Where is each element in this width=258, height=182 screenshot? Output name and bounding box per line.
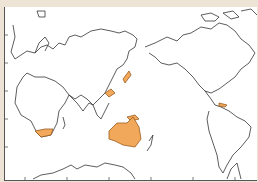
south-america-outline xyxy=(205,91,251,173)
new-zealand-outline xyxy=(147,135,153,151)
australia-highlight xyxy=(109,117,141,147)
south-africa-highlight xyxy=(35,129,53,137)
africa-outline xyxy=(15,77,69,137)
arctic-islands-outline xyxy=(37,11,239,21)
eurasia-outline xyxy=(11,25,137,105)
world-map xyxy=(5,7,257,180)
north-america-outline xyxy=(145,23,255,93)
seasia-outline xyxy=(93,103,109,119)
japan-highlight xyxy=(123,71,131,83)
map-frame xyxy=(4,7,257,181)
greenland-outline xyxy=(241,9,257,15)
caribbean-highlight xyxy=(219,103,227,107)
antarctic-peninsula-outline xyxy=(227,163,241,179)
madagascar-outline xyxy=(63,117,65,129)
antarctica-outline xyxy=(33,163,135,179)
